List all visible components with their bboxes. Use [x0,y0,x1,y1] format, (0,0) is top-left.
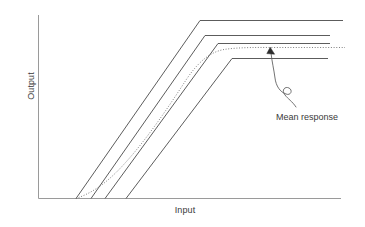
y-axis-label: Output [26,56,36,116]
mean-response-figure: Output Input Mean response [0,0,365,227]
x-axis-label: Input [150,205,220,215]
mean-response-annotation-label: Mean response [276,112,338,122]
